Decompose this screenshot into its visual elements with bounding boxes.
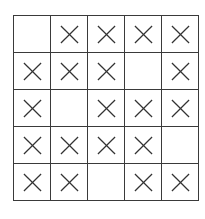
x-mark-icon xyxy=(23,62,42,81)
board-cell-r4-c1[interactable] xyxy=(14,127,51,164)
x-mark-icon xyxy=(97,25,116,44)
x-mark-icon xyxy=(134,25,153,44)
board-cell-r2-c1[interactable] xyxy=(14,53,51,90)
x-mark-icon xyxy=(171,99,190,118)
board-cell-r1-c5[interactable] xyxy=(162,16,199,53)
board-cell-r1-c4[interactable] xyxy=(125,16,162,53)
x-mark-icon xyxy=(60,136,79,155)
board-cell-r2-c3[interactable] xyxy=(88,53,125,90)
board-cell-r4-c2[interactable] xyxy=(51,127,88,164)
x-mark-icon xyxy=(134,99,153,118)
board-cell-r4-c4[interactable] xyxy=(125,127,162,164)
board-cell-r4-c5[interactable] xyxy=(162,127,199,164)
board-cell-r5-c5[interactable] xyxy=(162,164,199,201)
board-cell-r3-c4[interactable] xyxy=(125,90,162,127)
board-cell-r5-c4[interactable] xyxy=(125,164,162,201)
board-cell-r5-c2[interactable] xyxy=(51,164,88,201)
board-cell-r5-c1[interactable] xyxy=(14,164,51,201)
x-mark-icon xyxy=(134,136,153,155)
game-board xyxy=(13,15,199,201)
board-cell-r1-c1[interactable] xyxy=(14,16,51,53)
board-cell-r3-c5[interactable] xyxy=(162,90,199,127)
x-mark-icon xyxy=(97,136,116,155)
board-cell-r1-c2[interactable] xyxy=(51,16,88,53)
x-mark-icon xyxy=(134,173,153,192)
board-cell-r3-c1[interactable] xyxy=(14,90,51,127)
x-mark-icon xyxy=(60,62,79,81)
x-mark-icon xyxy=(171,62,190,81)
board-cell-r2-c4[interactable] xyxy=(125,53,162,90)
board-cell-r2-c5[interactable] xyxy=(162,53,199,90)
x-mark-icon xyxy=(23,136,42,155)
x-mark-icon xyxy=(60,25,79,44)
x-mark-icon xyxy=(171,173,190,192)
board-cell-r2-c2[interactable] xyxy=(51,53,88,90)
x-mark-icon xyxy=(97,99,116,118)
board-cell-r3-c3[interactable] xyxy=(88,90,125,127)
board-cell-r1-c3[interactable] xyxy=(88,16,125,53)
x-mark-icon xyxy=(97,62,116,81)
x-mark-icon xyxy=(23,99,42,118)
board-cell-r5-c3[interactable] xyxy=(88,164,125,201)
board-cell-r3-c2[interactable] xyxy=(51,90,88,127)
board-cell-r4-c3[interactable] xyxy=(88,127,125,164)
x-mark-icon xyxy=(171,25,190,44)
x-mark-icon xyxy=(23,173,42,192)
x-mark-icon xyxy=(60,173,79,192)
